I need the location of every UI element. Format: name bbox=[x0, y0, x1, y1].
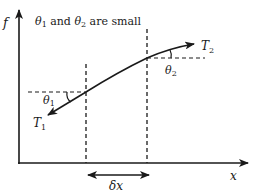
caption-rest: are small bbox=[86, 15, 141, 28]
string-segment bbox=[86, 58, 147, 92]
delta-x-label: δx bbox=[109, 179, 123, 193]
caption: θ1 and θ2 are small bbox=[35, 15, 142, 29]
string-tension-diagram: f x θ1 and θ2 are small θ1 T1 θ2 T2 δx bbox=[0, 0, 261, 194]
theta1-label: θ1 bbox=[43, 94, 55, 108]
t1-label: T1 bbox=[33, 116, 46, 132]
theta1-arc bbox=[67, 92, 71, 102]
x-axis-label: x bbox=[230, 169, 237, 183]
t2-label: T2 bbox=[201, 39, 214, 55]
theta2-label: θ2 bbox=[165, 64, 177, 78]
y-axis-label: f bbox=[2, 15, 10, 30]
theta2-arc bbox=[170, 50, 171, 58]
caption-and: and bbox=[47, 15, 75, 28]
